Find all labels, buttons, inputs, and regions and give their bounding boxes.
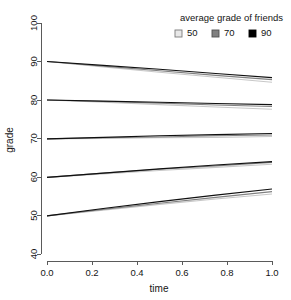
x-tick-label: 0.0 bbox=[40, 267, 53, 278]
legend-label: 50 bbox=[187, 27, 198, 38]
y-axis-tick-labels: 405060708090100 bbox=[28, 15, 39, 259]
series-line bbox=[47, 100, 272, 105]
x-tick-label: 0.6 bbox=[175, 267, 188, 278]
legend-swatch bbox=[212, 30, 219, 37]
chart-figure: 0.00.20.40.60.81.0 405060708090100 time … bbox=[0, 0, 291, 300]
legend-label: 90 bbox=[261, 27, 272, 38]
series-group bbox=[47, 62, 272, 216]
legend-items: 507090 bbox=[175, 27, 272, 38]
x-tick-label: 0.2 bbox=[85, 267, 98, 278]
y-tick-label: 80 bbox=[28, 95, 39, 106]
x-tick-label: 1.0 bbox=[265, 267, 278, 278]
series-line bbox=[47, 189, 272, 216]
legend-swatch bbox=[175, 30, 182, 37]
y-tick-label: 50 bbox=[28, 210, 39, 221]
line-chart: 0.00.20.40.60.81.0 405060708090100 time … bbox=[0, 0, 291, 300]
x-axis-title: time bbox=[150, 283, 169, 294]
legend-swatch bbox=[249, 30, 256, 37]
y-tick-label: 40 bbox=[28, 249, 39, 260]
series-line bbox=[47, 194, 272, 216]
x-tick-label: 0.8 bbox=[220, 267, 233, 278]
x-tick-label: 0.4 bbox=[130, 267, 143, 278]
x-axis-tick-labels: 0.00.20.40.60.81.0 bbox=[40, 267, 278, 278]
y-tick-label: 60 bbox=[28, 172, 39, 183]
axes-group bbox=[37, 23, 272, 265]
series-line bbox=[47, 62, 272, 78]
y-tick-label: 70 bbox=[28, 133, 39, 144]
y-tick-label: 90 bbox=[28, 56, 39, 67]
legend-label: 70 bbox=[224, 27, 235, 38]
series-line bbox=[47, 164, 272, 177]
series-line bbox=[47, 192, 272, 216]
legend-title: average grade of friends bbox=[180, 12, 283, 23]
y-tick-label: 100 bbox=[28, 15, 39, 31]
y-axis-title: grade bbox=[4, 127, 15, 153]
